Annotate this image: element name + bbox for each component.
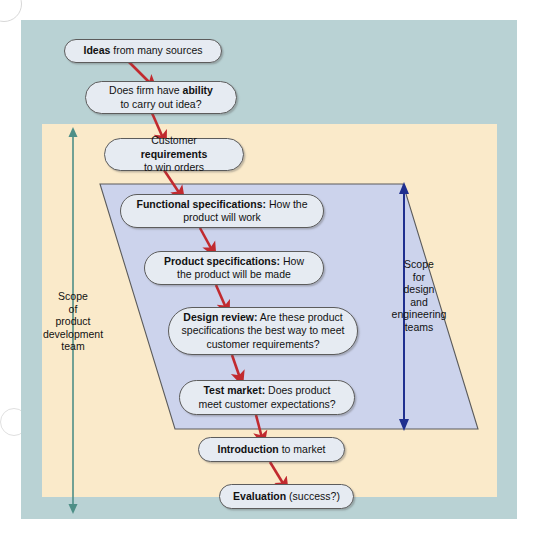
step-product-bold: Product specifications:: [164, 255, 280, 267]
step-requirements-line1-bold: requirements: [141, 148, 208, 160]
step-design-review[interactable]: Design review: Are these product specifi…: [168, 307, 358, 355]
arrow-introduction-to-evaluation: [270, 462, 284, 485]
step-ideas-rest: from many sources: [110, 44, 202, 56]
step-introduction-to-market[interactable]: Introduction to market: [198, 437, 345, 462]
step-product-specifications[interactable]: Product specifications: How the product …: [144, 251, 324, 285]
step-requirements-line2: to win orders: [144, 161, 204, 173]
step-functional-specifications[interactable]: Functional specifications: How the produ…: [120, 194, 324, 228]
product-development-scope-label: Scope of product development team: [36, 290, 110, 353]
step-firm-ability[interactable]: Does firm have ability to carry out idea…: [85, 81, 237, 114]
step-ability-line1-pre: Does firm have: [109, 84, 183, 96]
design-engineering-scope-label: Scope for design and engineering teams: [382, 258, 456, 333]
step-requirements-line1-pre: Customer: [151, 134, 197, 146]
step-ideas[interactable]: Ideas from many sources: [64, 39, 222, 63]
diagram-canvas: Ideas from many sources Does firm have a…: [0, 0, 538, 545]
step-evaluation-rest: (success?): [286, 490, 340, 502]
step-introduction-rest: to market: [279, 443, 326, 455]
step-ideas-bold: Ideas: [83, 44, 110, 56]
step-customer-requirements[interactable]: Customer requirements to win orders: [104, 138, 244, 171]
step-introduction-bold: Introduction: [218, 443, 279, 455]
step-functional-bold: Functional specifications:: [137, 198, 267, 210]
step-design-review-bold: Design review:: [183, 311, 257, 323]
step-ability-line1-bold: ability: [183, 84, 213, 96]
step-test-market[interactable]: Test market: Does product meet customer …: [179, 380, 355, 415]
step-ability-line2: to carry out idea?: [120, 98, 201, 110]
step-evaluation-bold: Evaluation: [233, 490, 286, 502]
step-test-market-bold: Test market:: [203, 384, 265, 396]
step-evaluation[interactable]: Evaluation (success?): [219, 484, 354, 509]
